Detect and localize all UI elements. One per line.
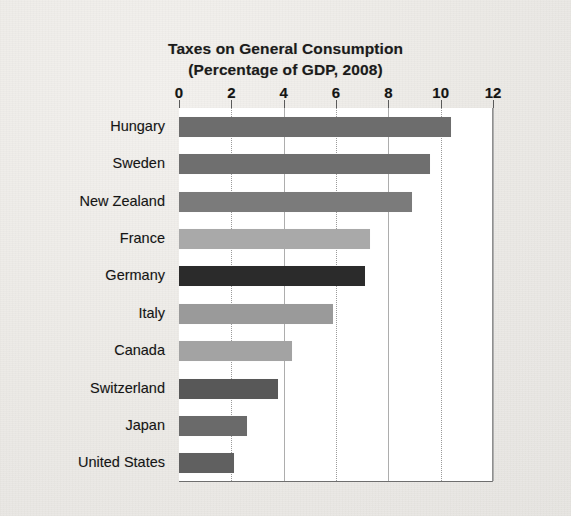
x-tick-label: 2 — [227, 84, 235, 101]
x-axis-tick-labels: 024681012 — [0, 84, 571, 106]
category-label: Italy — [0, 305, 173, 321]
category-label: Canada — [0, 342, 173, 358]
category-label: New Zealand — [0, 193, 173, 209]
bar — [179, 266, 365, 286]
x-tick-label: 12 — [485, 84, 502, 101]
category-label: Germany — [0, 267, 173, 283]
x-tick-label: 8 — [384, 84, 392, 101]
category-labels: HungarySwedenNew ZealandFranceGermanyIta… — [0, 108, 173, 482]
x-axis-tick — [284, 100, 285, 108]
x-axis-tick — [336, 100, 337, 108]
bar — [179, 304, 333, 324]
bar — [179, 117, 451, 137]
chart-title-block: Taxes on General Consumption (Percentage… — [0, 38, 571, 80]
bar — [179, 379, 278, 399]
bar — [179, 154, 430, 174]
gridline — [493, 108, 494, 481]
bar — [179, 416, 247, 436]
x-tick-label: 10 — [432, 84, 449, 101]
category-label: Switzerland — [0, 380, 173, 396]
x-axis-tick — [231, 100, 232, 108]
bars-layer — [179, 108, 493, 482]
category-label: France — [0, 230, 173, 246]
category-label: Japan — [0, 417, 173, 433]
bar — [179, 341, 292, 361]
x-tick-label: 6 — [332, 84, 340, 101]
chart-title: Taxes on General Consumption — [0, 38, 571, 59]
chart-figure: Taxes on General Consumption (Percentage… — [0, 0, 571, 516]
x-axis-tick — [388, 100, 389, 108]
category-label: Sweden — [0, 155, 173, 171]
x-tick-label: 4 — [279, 84, 287, 101]
x-tick-label: 0 — [175, 84, 183, 101]
bar — [179, 229, 370, 249]
bar — [179, 453, 234, 473]
x-axis-tick — [493, 100, 494, 108]
x-axis-tick — [179, 100, 180, 108]
category-label: United States — [0, 454, 173, 470]
category-label: Hungary — [0, 118, 173, 134]
x-axis-tick — [441, 100, 442, 108]
chart-subtitle: (Percentage of GDP, 2008) — [0, 59, 571, 80]
bar — [179, 192, 412, 212]
